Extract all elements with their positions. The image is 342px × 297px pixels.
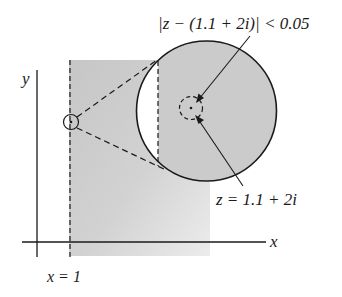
center-dot — [190, 107, 193, 110]
neighborhood-label: |z − (1.1 + 2i)| < 0.05 — [158, 14, 309, 33]
point-label: z = 1.1 + 2i — [215, 190, 297, 209]
x-equals-1-label: x = 1 — [46, 268, 81, 285]
y-axis-label: y — [20, 69, 30, 88]
x-axis-label: x — [269, 232, 278, 251]
point-dot — [70, 121, 73, 124]
complex-plane-diagram: y x x = 1 z = 1.1 + 2i |z − (1.1 + 2i)| … — [0, 0, 342, 297]
